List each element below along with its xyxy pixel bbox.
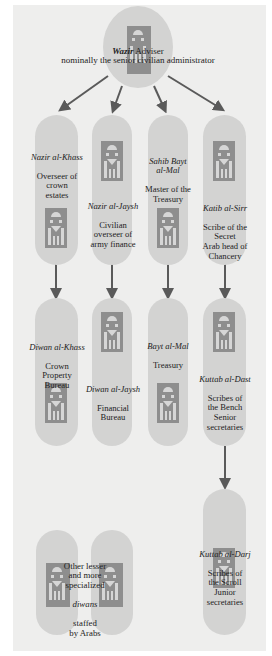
kuttab-al-darj-label: Kuttab al-Darj Scribes of the Scroll Jun… (188, 540, 262, 617)
node-title: Bayt al-Mal (133, 342, 203, 352)
figure-icon (213, 312, 235, 352)
figure-icon (45, 208, 67, 248)
other-diwans-italic: diwans (50, 600, 120, 610)
katib-al-sirr-label: Katib al-Sirr Scribe of the Secret Arab … (190, 194, 260, 271)
wazir-title-italic: Wazir (112, 46, 133, 56)
kuttab-al-dast-label: Kuttab al-Dast Scribes of the Bench Seni… (188, 365, 262, 442)
other-diwans-label: Other lesser and more specialized diwans… (50, 552, 120, 648)
node-description: Civilian overseer of army finance (78, 221, 148, 250)
node-description: Scribes of the Bench Senior secretaries (188, 394, 262, 432)
wazir-description: nominally the senior civilian administra… (20, 56, 256, 66)
node-title: Sahib Bayt al-Mal (133, 157, 203, 176)
figure-icon (101, 141, 123, 181)
figure-icon (101, 312, 123, 352)
node-description: Scribe of the Secret Arab head of Chance… (190, 223, 260, 261)
node-description: Financial Bureau (76, 404, 150, 423)
wazir-label: Wazir Adviser nominally the senior civil… (20, 37, 256, 75)
node-title: Diwan al-Jaysh (76, 385, 150, 395)
node-description: Scribes of the Scroll Junior secretaries (188, 569, 262, 607)
node-title: Diwan al-Khass (20, 343, 94, 353)
other-diwans-text-1: Other lesser and more specialized (50, 562, 120, 591)
figure-icon (213, 141, 235, 181)
node-title: Katib al-Sirr (190, 204, 260, 214)
other-diwans-text-2: staffed by Arabs (50, 619, 120, 638)
figure-icon (157, 383, 179, 423)
diwan-al-jaysh-label: Diwan al-Jaysh Financial Bureau (76, 375, 150, 433)
node-title: Kuttab al-Dast (188, 375, 262, 385)
node-title: Nazir al-Khass (22, 153, 92, 163)
wazir-title: Adviser (135, 46, 164, 56)
node-title: Kuttab al-Darj (188, 550, 262, 560)
